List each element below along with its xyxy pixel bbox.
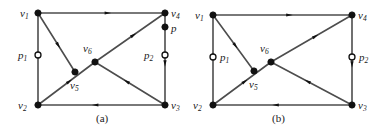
arrowhead-v4-v3 xyxy=(163,60,166,67)
edge-v2-v6 xyxy=(213,62,271,105)
vertex-v2 xyxy=(35,102,41,108)
vertex-v4 xyxy=(162,10,168,16)
arrowhead-v3-v2 xyxy=(272,103,279,106)
vertex-v6 xyxy=(92,59,98,65)
figure-two-directed-graphs: v1v4v2v3v5v6pp1p2v1v4v2v3v5v6p1p2(a)(b) xyxy=(0,0,381,132)
label-v3: v3 xyxy=(171,100,180,111)
vertex-v1 xyxy=(210,12,216,18)
vertex-v2 xyxy=(210,102,216,108)
vertex-v3 xyxy=(349,102,355,108)
edge-v3-v6 xyxy=(95,62,165,105)
arrowhead-v4-v3 xyxy=(350,61,353,68)
port-p2 xyxy=(349,54,355,60)
label-p2: p2 xyxy=(144,50,153,61)
label-p1: p1 xyxy=(18,50,27,61)
label-v5: v5 xyxy=(249,79,258,90)
port-p2 xyxy=(162,52,168,58)
label-v5: v5 xyxy=(70,80,79,91)
vertex-v6 xyxy=(268,59,274,65)
label-v4: v4 xyxy=(171,8,180,19)
arrowhead-v1-v4 xyxy=(105,11,112,14)
edge-v6-v4 xyxy=(271,15,352,62)
label-v1: v1 xyxy=(20,8,29,19)
port-p1 xyxy=(210,54,216,60)
arrowhead-v1-v4 xyxy=(286,13,293,16)
panel-caption-a: (a) xyxy=(96,113,108,124)
panel-caption-b: (b) xyxy=(272,113,285,124)
edge-v2-v6 xyxy=(38,62,95,105)
vertex-p xyxy=(162,24,168,30)
arrowhead-v3-v2 xyxy=(92,103,99,106)
label-p2: p2 xyxy=(359,52,368,63)
label-p: p xyxy=(171,23,177,34)
edge-v1-v5 xyxy=(38,13,75,72)
edge-v6-v4 xyxy=(95,13,165,62)
label-v1: v1 xyxy=(195,10,204,21)
label-v6: v6 xyxy=(260,43,269,54)
label-v4: v4 xyxy=(358,10,367,21)
label-v2: v2 xyxy=(193,100,202,111)
vertex-v5 xyxy=(72,69,78,75)
label-v6: v6 xyxy=(83,43,92,54)
graph-canvas xyxy=(0,0,381,132)
vertex-v3 xyxy=(162,102,168,108)
port-p1 xyxy=(35,52,41,58)
label-p1: p1 xyxy=(220,52,229,63)
label-v2: v2 xyxy=(18,100,27,111)
vertex-v1 xyxy=(35,10,41,16)
vertex-v4 xyxy=(349,12,355,18)
vertex-v5 xyxy=(251,68,257,74)
label-v3: v3 xyxy=(358,100,367,111)
edge-v3-v6 xyxy=(271,62,352,105)
